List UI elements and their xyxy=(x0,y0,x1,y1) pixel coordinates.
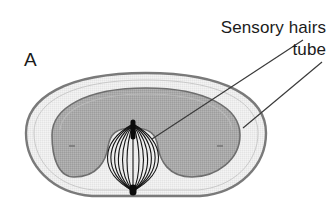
figure-root: A Sensory hairs tube xyxy=(0,0,335,216)
cross-section-diagram: A Sensory hairs tube xyxy=(0,0,335,216)
label-sensory-hairs: Sensory hairs xyxy=(221,18,326,37)
panel-letter: A xyxy=(24,49,37,70)
label-tube: tube xyxy=(293,40,327,59)
